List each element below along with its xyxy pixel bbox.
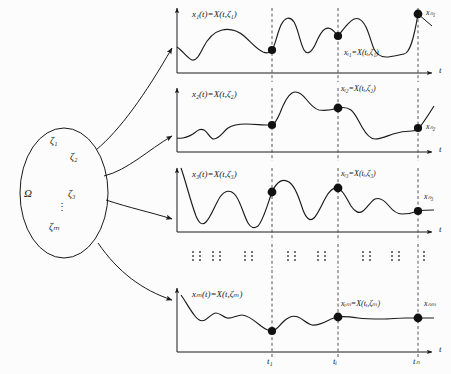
panel-2-function-label: x₂(t)=X(t,ζ₂) xyxy=(192,90,237,99)
panel-m-axis-label-t: t xyxy=(439,345,442,354)
outcome-zeta-m: ζₘ xyxy=(49,222,59,232)
panel-1-end-sample-label: xₙ₁ xyxy=(426,9,435,17)
ellipsis-pair xyxy=(212,251,221,261)
panel-m-sample-dot-tn xyxy=(414,314,423,323)
panel-3-end-sample-label: xₙ₃ xyxy=(424,193,433,201)
panel-m-mid-sample-label: xᵢₘ=X(tᵢ,ζₘ) xyxy=(341,300,380,308)
panel-2-axis-label-t: t xyxy=(439,145,442,154)
ellipsis-pair xyxy=(423,251,425,261)
panel-2-mid-sample-label: xᵢ₂=X(tᵢ,ζ₂) xyxy=(341,85,376,93)
panel-1-mid-sample-label: xᵢ₁=X(tᵢ,ζ₁) xyxy=(344,49,379,57)
ellipsis-pair xyxy=(287,251,296,261)
time-tick-t1: t₁ xyxy=(267,357,273,366)
time-tick-ti: tᵢ xyxy=(333,357,337,366)
time-tick-tn: tₙ xyxy=(413,357,420,366)
figure-canvas: Ω ζ₁ ζ₂ ζ₃ ⋮ ζₘ x₁(t)=X(t,ζ₁) xᵢ₁=X(tᵢ,ζ… xyxy=(0,0,451,374)
panel-2-end-sample-label: xₙ₂ xyxy=(426,123,435,131)
outcome-zeta-3: ζ₃ xyxy=(68,189,76,199)
panel-1-sample-dot-ti xyxy=(334,32,342,40)
outcome-vertical-ellipsis: ⋮ xyxy=(57,202,67,212)
panel-3-mid-sample-label: xᵢ₃=X(tᵢ,ζ₃) xyxy=(341,170,376,178)
ellipsis-pair xyxy=(362,251,371,261)
panel-m-function-label: xₘ(t)=X(t,ζₘ) xyxy=(192,290,242,299)
panel-2-waveform xyxy=(177,92,434,139)
mapping-arrow-2 xyxy=(104,136,172,176)
panel-3-function-label: x₃(t)=X(t,ζ₃) xyxy=(192,170,237,179)
ellipsis-pair xyxy=(244,251,253,261)
panel-3-axis-label-t: t xyxy=(439,225,442,234)
panel-3-sample-dot-ti xyxy=(334,184,343,193)
panel-m-sample-dot-ti xyxy=(334,313,343,322)
mapping-arrow-m xyxy=(98,243,172,300)
panel-1-group xyxy=(177,8,432,82)
panel-1-axis-label-t: t xyxy=(439,66,442,75)
sample-space-ellipse xyxy=(20,128,108,258)
mapping-arrow-3 xyxy=(106,200,172,219)
mapping-arrow-1 xyxy=(96,48,172,150)
panel-3-sample-dot-t1 xyxy=(268,188,277,197)
panel-m-waveform xyxy=(181,295,434,331)
panel-2-sample-dot-t1 xyxy=(268,121,276,129)
panel-m-group xyxy=(177,270,434,358)
outcome-zeta-2: ζ₂ xyxy=(70,152,78,162)
ellipsis-band xyxy=(192,244,425,268)
ellipsis-pair xyxy=(391,251,400,261)
panel-3-sample-dot-tn xyxy=(414,207,422,215)
ellipsis-pair xyxy=(317,251,326,261)
ellipsis-pair xyxy=(192,251,201,261)
sample-space-symbol: Ω xyxy=(24,188,32,199)
panel-2-sample-dot-ti xyxy=(334,104,343,113)
panel-2-sample-dot-tn xyxy=(414,124,422,132)
outcome-zeta-1: ζ₁ xyxy=(50,136,58,146)
panel-m-end-sample-label: xₙₘ xyxy=(424,300,436,308)
panel-1-function-label: x₁(t)=X(t,ζ₁) xyxy=(192,10,237,19)
diagram-svg xyxy=(0,0,451,374)
panel-1-waveform xyxy=(177,14,418,60)
panel-1-sample-dot-t1 xyxy=(268,46,276,54)
panel-m-sample-dot-t1 xyxy=(268,327,276,335)
